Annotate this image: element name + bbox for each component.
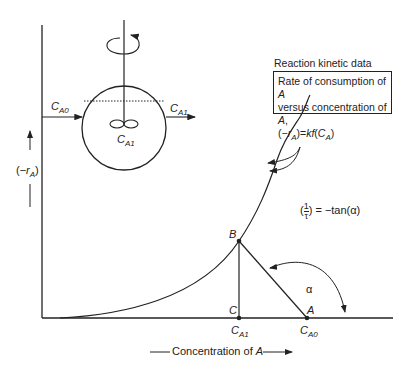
operating-line-ba: [239, 241, 307, 318]
impeller-right-icon: [124, 120, 138, 128]
x-tick-ca1: CA1: [231, 325, 249, 339]
box-line-1: Rate of consumption of A: [278, 75, 387, 101]
reactor-inside-label: CA1: [117, 134, 135, 148]
box-line-2: versus concentration of A,: [278, 101, 387, 127]
angle-alpha-label: α: [306, 284, 312, 295]
kinetic-data-box: Rate of consumption of A versus concentr…: [273, 71, 392, 114]
inlet-label: CA0: [51, 101, 69, 115]
point-a: [305, 316, 310, 321]
rotation-arrow-icon: [107, 35, 139, 54]
rate-curve: [60, 95, 310, 318]
point-b: [237, 239, 242, 244]
slope-equation: (1τ) = −tan(α): [300, 202, 360, 221]
reaction-kinetic-data-title: Reaction kinetic data: [274, 58, 371, 69]
point-c-label: C: [229, 305, 237, 316]
x-tick-ca0: CA0: [300, 325, 318, 339]
y-axis-label: (−rA): [16, 165, 39, 179]
outlet-label: CA1: [170, 103, 188, 117]
point-b-label: B: [229, 229, 236, 240]
diagram-canvas: [0, 0, 409, 372]
impeller-left-icon: [110, 120, 124, 128]
pointer-arrow-1: [268, 147, 300, 163]
box-line-3: (−rA)=kf(CA): [278, 127, 387, 144]
point-c: [237, 316, 242, 321]
point-a-label: A: [307, 305, 314, 316]
x-axis-label: Concentration of A: [172, 346, 263, 357]
